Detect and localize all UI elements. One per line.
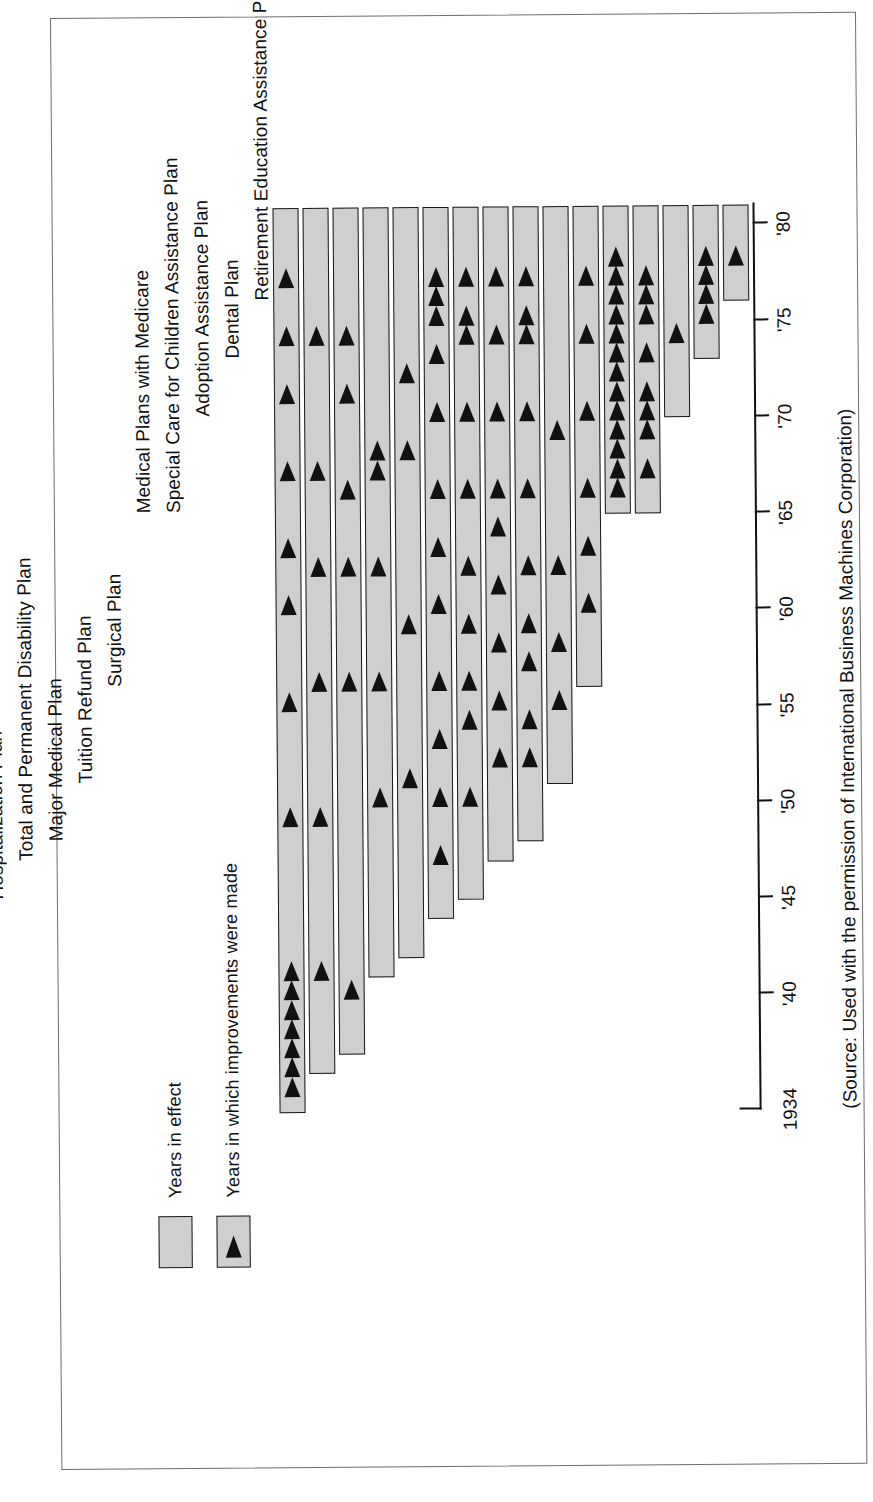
- improvement-marker-icon: [461, 710, 477, 730]
- improvement-marker-icon: [578, 266, 594, 286]
- category-label: Total and Permanent Disability Plan: [13, 557, 37, 861]
- bar-row: [392, 207, 424, 958]
- axis-tick-label: '80: [773, 211, 795, 236]
- improvement-marker-icon: [490, 575, 506, 595]
- improvement-marker-icon: [490, 478, 506, 498]
- improvement-marker-icon: [460, 479, 476, 499]
- improvement-marker-icon: [372, 787, 388, 807]
- improvement-marker-icon: [313, 961, 329, 981]
- improvement-marker-icon: [340, 479, 356, 499]
- improvement-marker-icon: [639, 342, 655, 362]
- improvement-marker-icon: [428, 305, 444, 325]
- legend-item-improvements: Years in which improvements were made: [214, 907, 251, 1267]
- axis-tick-label: '45: [778, 885, 800, 910]
- improvement-marker-icon: [369, 460, 385, 480]
- improvement-marker-icon: [284, 1038, 300, 1058]
- bar-row: [692, 205, 719, 359]
- improvement-marker-icon: [458, 305, 474, 325]
- improvement-marker-icon: [578, 324, 594, 344]
- improvement-marker-icon: [312, 807, 328, 827]
- improvement-marker-icon: [428, 286, 444, 306]
- improvement-marker-icon: [698, 265, 714, 285]
- plot-area: [271, 204, 760, 1113]
- axis-tick-label: '70: [774, 404, 796, 429]
- improvement-marker-icon: [488, 324, 504, 344]
- improvement-marker-icon: [432, 787, 448, 807]
- improvement-marker-icon: [344, 980, 360, 1000]
- axis-tick-label-1934: 1934: [779, 1088, 801, 1130]
- improvement-marker-icon: [521, 651, 537, 671]
- bar-row: [273, 208, 306, 1113]
- axis-tick: [754, 414, 769, 416]
- improvement-marker-icon: [521, 613, 537, 633]
- improvement-marker-icon: [520, 555, 536, 575]
- category-label: Dental Plan: [221, 259, 244, 359]
- bar-row: [722, 205, 749, 301]
- axis-tick-label: '50: [777, 789, 799, 814]
- improvement-marker-icon: [579, 401, 595, 421]
- improvement-marker-icon: [371, 672, 387, 692]
- improvement-marker-icon: [609, 343, 625, 363]
- improvement-marker-icon: [339, 383, 355, 403]
- improvement-marker-icon: [281, 692, 297, 712]
- axis-tick-label: '55: [776, 692, 798, 717]
- axis-tick: [753, 222, 768, 224]
- bar-row: [662, 205, 690, 417]
- improvement-marker-icon: [458, 267, 474, 287]
- improvement-marker-icon: [430, 537, 446, 557]
- improvement-marker-icon: [310, 557, 326, 577]
- bar-row: [602, 205, 630, 513]
- improvement-marker-icon: [284, 1058, 300, 1078]
- improvement-marker-icon: [459, 402, 475, 422]
- improvement-marker-icon: [461, 613, 477, 633]
- axis-tick: [756, 703, 771, 705]
- improvement-marker-icon: [698, 246, 714, 266]
- improvement-marker-icon: [610, 477, 626, 497]
- source-note: (Source: Used with the permission of Int…: [834, 409, 861, 1109]
- axis-tick: [756, 607, 771, 609]
- improvement-marker-icon: [338, 325, 354, 345]
- improvement-marker-icon: [518, 266, 534, 286]
- improvement-marker-icon: [608, 285, 624, 305]
- improvement-marker-icon: [609, 400, 625, 420]
- category-label: Adoption Assistance Plan: [190, 200, 214, 417]
- improvement-marker-icon: [549, 420, 565, 440]
- improvement-marker-icon: [638, 304, 654, 324]
- improvement-marker-icon: [639, 400, 655, 420]
- category-label: Surgical Plan: [103, 574, 126, 687]
- improvement-marker-icon: [608, 304, 624, 324]
- bar-row: [452, 207, 483, 900]
- improvement-marker-icon: [308, 326, 324, 346]
- axis-tick-label: '60: [776, 596, 798, 621]
- category-label: Retirement Education Assistance Plan: [249, 0, 274, 301]
- improvement-marker-icon: [340, 556, 356, 576]
- improvement-marker-icon: [608, 246, 624, 266]
- improvement-marker-icon: [609, 381, 625, 401]
- improvement-marker-icon: [518, 305, 534, 325]
- improvement-marker-icon: [428, 267, 444, 287]
- improvement-marker-icon: [490, 517, 506, 537]
- axis-tick: [759, 992, 774, 994]
- improvement-marker-icon: [461, 671, 477, 691]
- bar-row: [512, 206, 543, 842]
- improvement-marker-icon: [520, 478, 536, 498]
- improvement-marker-icon: [284, 1077, 300, 1097]
- improvement-marker-icon: [282, 807, 298, 827]
- axis-tick: [757, 799, 772, 801]
- improvement-marker-icon: [491, 690, 507, 710]
- improvement-marker-icon: [284, 1000, 300, 1020]
- improvement-marker-icon: [521, 709, 537, 729]
- bar-row: [632, 205, 660, 513]
- improvement-marker-icon: [580, 535, 596, 555]
- axis-tick: [755, 510, 770, 512]
- improvement-marker-icon: [279, 461, 295, 481]
- axis-tick-label: '75: [773, 307, 795, 332]
- improvement-marker-icon: [460, 556, 476, 576]
- improvement-marker-icon: [278, 326, 294, 346]
- improvement-marker-icon: [429, 402, 445, 422]
- bar-row: [303, 208, 336, 1075]
- improvement-marker-icon: [279, 384, 295, 404]
- improvement-marker-icon: [280, 538, 296, 558]
- improvement-marker-icon: [609, 439, 625, 459]
- bars-layer: [271, 204, 760, 1113]
